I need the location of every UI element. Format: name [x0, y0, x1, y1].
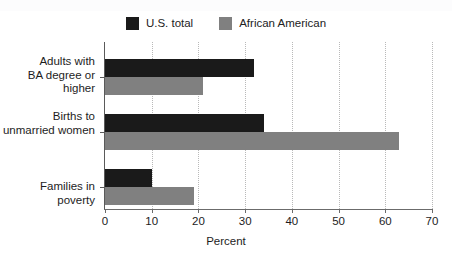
x-axis-title: Percent [0, 235, 452, 247]
x-tick-label-60: 60 [379, 215, 392, 227]
bar-2-0 [105, 169, 152, 187]
legend-label-african-american: African American [239, 18, 326, 30]
x-tick-label-70: 70 [426, 215, 439, 227]
x-tick-label-20: 20 [192, 215, 205, 227]
chart-legend: U.S. total African American [0, 17, 452, 30]
gridline-60 [385, 42, 386, 209]
x-tick-label-40: 40 [285, 215, 298, 227]
x-tick-10 [152, 209, 153, 213]
bar-0-1 [105, 77, 203, 95]
x-tick-0 [105, 209, 106, 213]
legend-swatch-african-american [219, 17, 232, 30]
gridline-40 [292, 42, 293, 209]
x-tick-70 [432, 209, 433, 213]
x-tick-label-10: 10 [145, 215, 158, 227]
gridline-70 [432, 42, 433, 209]
legend-item-us-total: U.S. total [126, 17, 193, 30]
x-axis-line [104, 209, 433, 210]
bar-0-0 [105, 59, 254, 77]
x-tick-60 [385, 209, 386, 213]
legend-item-african-american: African American [219, 17, 326, 30]
gridline-50 [339, 42, 340, 209]
category-label-adults-ba-degree: Adults with BA degree or higher [0, 55, 95, 96]
bar-1-0 [105, 114, 264, 132]
x-tick-20 [198, 209, 199, 213]
bar-2-1 [105, 187, 194, 205]
x-tick-50 [339, 209, 340, 213]
x-tick-label-30: 30 [239, 215, 252, 227]
x-tick-40 [292, 209, 293, 213]
plot-area: 010203040506070 [105, 42, 432, 209]
x-tick-label-50: 50 [332, 215, 345, 227]
bar-chart: U.S. total African American Adults with … [0, 0, 452, 259]
category-label-births-unmarried: Births to unmarried women [3, 110, 95, 137]
legend-label-us-total: U.S. total [146, 18, 193, 30]
category-label-families-poverty: Families in poverty [0, 180, 95, 207]
x-tick-30 [245, 209, 246, 213]
x-tick-label-0: 0 [102, 215, 108, 227]
page-crop-artifact [0, 0, 452, 11]
legend-swatch-us-total [126, 17, 139, 30]
bar-1-1 [105, 132, 399, 150]
